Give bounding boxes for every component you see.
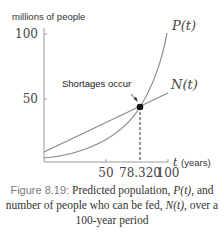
caption-text: Predicted population, <box>69 184 173 196</box>
p-curve <box>44 33 167 158</box>
ytick-label-100: 100 <box>15 27 38 41</box>
n-curve <box>44 93 168 152</box>
figure-caption: Figure 8.19: Predicted population, P(t),… <box>0 183 224 228</box>
shortages-annotation: Shortages occur <box>62 78 131 89</box>
caption-label: Figure 8.19: <box>10 184 69 196</box>
n-curve-label: N(t) <box>170 77 198 92</box>
caption-p: P(t) <box>173 184 191 196</box>
x-axis-unit: (years) <box>181 157 211 168</box>
ytick-label-50: 50 <box>23 92 38 106</box>
x-axis-var: t <box>173 156 178 169</box>
intersection-point <box>137 104 144 111</box>
xtick-label-50: 50 <box>98 166 113 180</box>
p-curve-label: P(t) <box>171 18 196 33</box>
y-axis-label: millions of people <box>12 11 85 22</box>
xtick-label-78320: 78.320 <box>119 166 161 180</box>
caption-n: N(t) <box>165 199 184 211</box>
